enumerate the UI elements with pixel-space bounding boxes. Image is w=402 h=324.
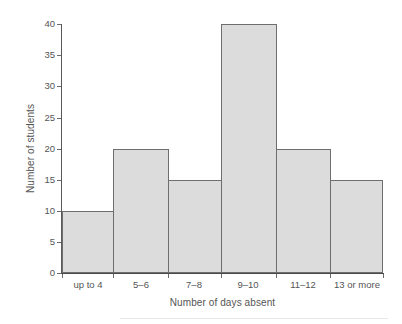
x-tick-label-13-or-more: 13 or more xyxy=(322,279,392,291)
x-tick-mark-3 xyxy=(221,274,222,278)
x-tick-mark-1 xyxy=(113,274,114,278)
y-tick-label-25: 25 xyxy=(33,113,55,123)
y-tick-label-20: 20 xyxy=(33,144,55,154)
bar-5-6 xyxy=(113,149,169,274)
scan-artifact-line xyxy=(120,318,388,319)
x-tick-mark-2 xyxy=(168,274,169,278)
y-tick-label-0: 0 xyxy=(33,268,55,278)
x-tick-mark-6 xyxy=(383,274,384,278)
x-tick-label-5-6: 5–6 xyxy=(111,279,171,291)
bar-up-to-4 xyxy=(62,211,114,273)
y-tick-label-15: 15 xyxy=(33,175,55,185)
y-tick-label-5: 5 xyxy=(33,237,55,247)
bar-13-or-more xyxy=(330,180,383,273)
x-axis-title: Number of days absent xyxy=(62,296,383,309)
y-tick-label-35: 35 xyxy=(33,50,55,60)
y-tick-label-30: 30 xyxy=(33,81,55,91)
x-tick-label-9-10: 9–10 xyxy=(218,279,278,291)
y-tick-label-40: 40 xyxy=(33,19,55,29)
histogram-figure: Number of students 40 35 30 25 20 15 10 … xyxy=(0,0,402,324)
bar-11-12 xyxy=(276,149,331,274)
bar-9-10 xyxy=(221,24,277,273)
x-tick-mark-0 xyxy=(62,274,63,278)
x-tick-mark-5 xyxy=(330,274,331,278)
x-axis-line xyxy=(61,273,384,274)
x-tick-label-up-to-4: up to 4 xyxy=(58,279,118,291)
y-tick-label-10: 10 xyxy=(33,206,55,216)
bar-7-8 xyxy=(168,180,222,273)
x-tick-mark-4 xyxy=(276,274,277,278)
plot-area xyxy=(62,24,383,273)
x-tick-label-7-8: 7–8 xyxy=(164,279,224,291)
